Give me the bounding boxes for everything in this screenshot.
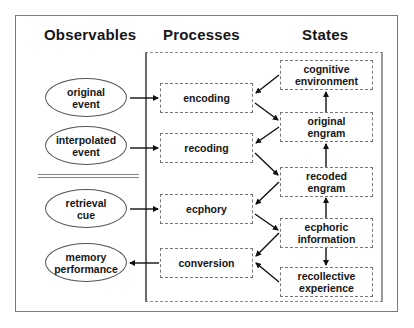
state-ecphoric-information: ecphoric information bbox=[280, 218, 373, 248]
observable-original-event: original event bbox=[45, 78, 127, 117]
state-recollective-experience: recollective experience bbox=[280, 267, 373, 297]
heading-processes: Processes bbox=[163, 26, 240, 43]
observable-retrieval-cue: retrieval cue bbox=[45, 189, 127, 228]
heading-observables: Observables bbox=[44, 26, 136, 43]
process-encoding: encoding bbox=[160, 83, 253, 113]
observable-memory-performance: memory performance bbox=[45, 243, 127, 282]
state-original-engram: original engram bbox=[280, 112, 373, 142]
heading-states: States bbox=[302, 26, 348, 43]
process-ecphory: ecphory bbox=[160, 194, 253, 224]
state-recoded-engram: recoded engram bbox=[280, 167, 373, 197]
observable-interpolated-event: interpolated event bbox=[45, 126, 127, 165]
state-cognitive-environment: cognitive environment bbox=[280, 60, 373, 90]
process-recoding: recoding bbox=[160, 133, 253, 163]
separator-line bbox=[38, 174, 139, 178]
process-conversion: conversion bbox=[160, 248, 253, 278]
